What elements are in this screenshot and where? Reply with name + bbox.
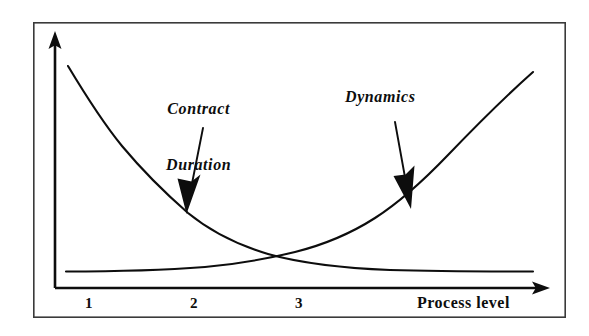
series-dynamics-curve	[66, 72, 533, 272]
chart-canvas	[0, 0, 589, 336]
x-tick-label-2: 2	[190, 295, 198, 313]
x-tick-label-1: 1	[85, 295, 93, 313]
figure-frame	[34, 23, 565, 317]
x-tick-label-3: 3	[295, 295, 303, 313]
annotation-dynamics: Dynamics	[345, 88, 416, 107]
annotation-contract-duration-line1: Contract	[166, 100, 231, 119]
figure-container: Contract Duration Dynamics 1 2 3 Process…	[0, 0, 589, 336]
dynamics-arrow-shaft	[395, 122, 406, 180]
annotation-contract-duration-line2: Duration	[166, 156, 231, 175]
x-axis-label: Process level	[417, 294, 510, 313]
series-contract-duration-curve	[68, 66, 533, 272]
annotation-contract-duration: Contract Duration	[166, 62, 231, 213]
